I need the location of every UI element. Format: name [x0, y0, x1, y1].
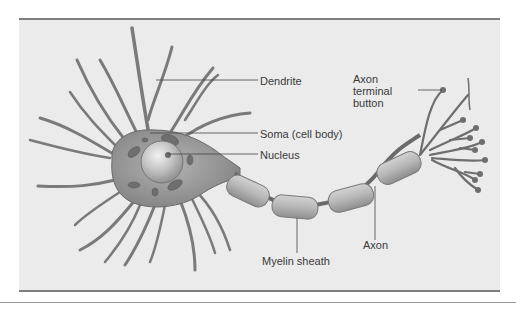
label-myelin-sheath: Myelin sheath: [262, 255, 330, 267]
label-dendrite: Dendrite: [260, 75, 302, 87]
target-cell-membrane: [468, 78, 470, 110]
neuron-illustration: [0, 0, 516, 310]
label-axon-terminal-button: Axon terminal button: [353, 73, 392, 109]
label-soma: Soma (cell body): [260, 128, 343, 140]
axon-terminals: [420, 90, 485, 190]
label-axon: Axon: [363, 239, 388, 251]
nucleus-shape: [141, 141, 183, 183]
label-nucleus: Nucleus: [260, 149, 300, 161]
myelin-segments: [223, 148, 424, 220]
terminal-buttons: [440, 87, 488, 193]
